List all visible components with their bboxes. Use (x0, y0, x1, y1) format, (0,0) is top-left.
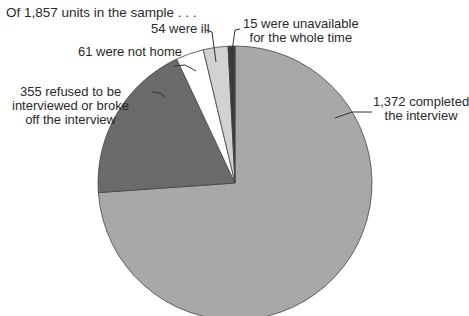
label-refused: 355 refused to be interviewed or broke o… (12, 85, 129, 127)
label-not-home: 61 were not home (78, 45, 182, 59)
label-completed-line1: 1,372 completed (373, 95, 469, 109)
label-ill-line1: 54 were ill (151, 22, 210, 36)
label-refused-line1: 355 refused to be (12, 85, 129, 99)
label-not-home-line1: 61 were not home (78, 45, 182, 59)
label-unavailable-line2: for the whole time (243, 31, 359, 45)
label-completed: 1,372 completed the interview (373, 95, 469, 123)
label-refused-line2: interviewed or broke (12, 99, 129, 113)
pie-slices (98, 46, 372, 316)
label-unavailable-line1: 15 were unavailable (243, 17, 359, 31)
label-refused-line3: off the interview (12, 113, 129, 127)
label-unavailable: 15 were unavailable for the whole time (243, 17, 359, 45)
label-completed-line2: the interview (373, 109, 469, 123)
label-ill: 54 were ill (151, 22, 210, 36)
